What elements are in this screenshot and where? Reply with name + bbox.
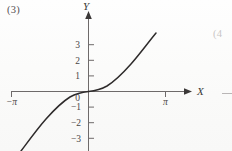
x-axis-label: X [196, 85, 205, 97]
y-tick-label-1: 1 [75, 71, 80, 81]
x-axis-arrowhead [184, 88, 192, 95]
x-tick-label-minus-pi: −π [6, 97, 17, 107]
y-tick-label-3: 3 [75, 40, 80, 50]
y-tick-label-minus-1: −1 [71, 102, 81, 112]
y-axis-arrowhead [85, 11, 92, 19]
adjacent-figure-axis-stub [222, 93, 232, 94]
y-tick-label-minus-2: −2 [71, 118, 81, 128]
y-tick-label-2: 2 [75, 56, 80, 66]
x-tick-label-pi: π [163, 97, 168, 107]
figure-screenshot: (3) (4 X Y 3 2 1 −1 −2 −3 0 [0, 0, 232, 151]
coordinate-plot: X Y 3 2 1 −1 −2 −3 0 −π π [0, 0, 232, 151]
y-axis-label: Y [83, 0, 91, 12]
origin-label: 0 [75, 93, 80, 103]
y-tick-label-minus-3: −3 [71, 134, 81, 144]
